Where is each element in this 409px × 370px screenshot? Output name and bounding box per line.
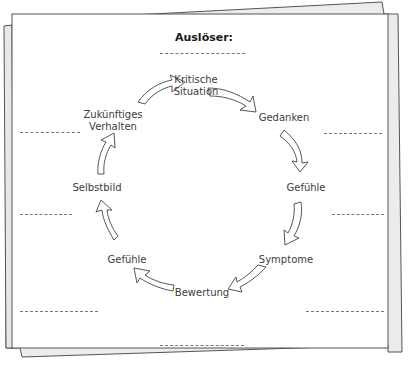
node-gedanken: Gedanken (259, 112, 310, 124)
answer-line-bottom[interactable] (160, 345, 244, 346)
node-kritische-situation: Kritische Situation (174, 74, 219, 98)
worksheet-diagram (0, 0, 409, 370)
node-bewertung: Bewertung (175, 287, 229, 299)
node-label: Zukünftiges (83, 109, 142, 121)
trigger-title: Auslöser: (175, 31, 233, 44)
node-label: Situation (174, 86, 219, 98)
answer-line-right-3[interactable] (306, 311, 384, 312)
answer-line-left-1[interactable] (20, 132, 80, 133)
node-label: Verhalten (83, 121, 142, 133)
node-gefuehle-left: Gefühle (107, 254, 146, 266)
answer-line-left-3[interactable] (20, 311, 98, 312)
trigger-answer-line[interactable] (160, 53, 245, 54)
node-selbstbild: Selbstbild (72, 182, 121, 194)
answer-line-right-2[interactable] (332, 214, 384, 215)
node-gefuehle-right: Gefühle (286, 182, 325, 194)
node-label: Kritische (174, 74, 219, 86)
node-symptome: Symptome (259, 254, 313, 266)
node-zukuenftiges-verhalten: Zukünftiges Verhalten (83, 109, 142, 133)
answer-line-left-2[interactable] (20, 214, 72, 215)
answer-line-right-1[interactable] (324, 133, 382, 134)
